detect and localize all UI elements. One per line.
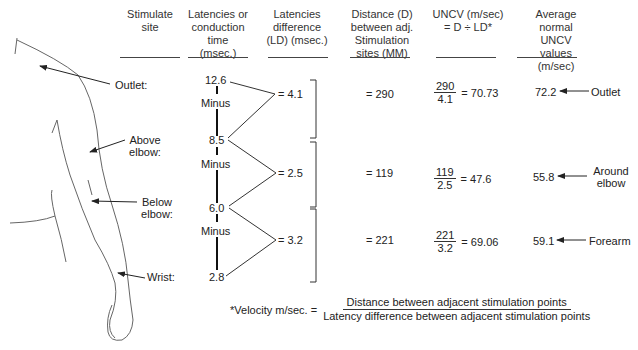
ld-value: = 4.1: [278, 88, 303, 100]
latency-value: 6.0: [209, 202, 224, 214]
header-uncv: UNCV (m/sec) = D ÷ LD*: [432, 8, 504, 34]
ld-value: = 2.5: [278, 167, 303, 179]
minus-label: Minus: [201, 97, 230, 109]
header-latency: Latencies or conduction time (msec.): [188, 8, 248, 60]
site-label-above-elbow: Above elbow:: [125, 134, 165, 158]
avg-value: 59.1: [533, 235, 554, 247]
uncv-fraction: 1192.5 = 47.6: [434, 166, 491, 191]
minus-label: Minus: [201, 158, 230, 170]
uncv-numerator: 290: [434, 80, 456, 93]
uncv-numerator: 119: [434, 166, 456, 179]
uncv-fraction: 2213.2 = 69.06: [434, 229, 498, 254]
avg-value: 55.8: [533, 171, 554, 183]
site-label-below-elbow: Below elbow:: [137, 196, 177, 220]
header-rule: [188, 57, 248, 58]
uncv-denominator: 4.1: [438, 93, 453, 105]
formula-lhs: *Velocity m/sec. =: [230, 304, 317, 316]
latency-value: 2.8: [209, 271, 224, 283]
uncv-denominator: 2.5: [437, 179, 452, 191]
site-label-outlet: Outlet:: [115, 79, 147, 91]
header-rule: [120, 57, 180, 58]
distance-value: = 221: [366, 234, 394, 246]
header-ld: Latencies difference (LD) (msec.): [266, 8, 328, 47]
distance-value: = 290: [366, 88, 394, 100]
avg-region: Around elbow: [589, 165, 633, 189]
distance-value: = 119: [366, 167, 393, 179]
formula-numerator: Distance between adjacent stimulation po…: [343, 296, 571, 310]
velocity-formula: *Velocity m/sec. = Distance between adja…: [230, 296, 590, 323]
uncv-numerator: 221: [434, 229, 456, 242]
header-rule: [436, 57, 496, 58]
uncv-result: = 70.73: [461, 87, 498, 99]
header-rule: [517, 57, 577, 58]
latency-value: 8.5: [209, 134, 224, 146]
site-label-wrist: Wrist:: [147, 271, 175, 283]
header-distance: Distance (D) between adj. Stimulation si…: [346, 8, 418, 60]
ld-value: = 3.2: [278, 234, 303, 246]
header-site: Stimulate site: [120, 8, 180, 34]
latency-value: 12.6: [205, 74, 226, 86]
uncv-fraction: 2904.1 = 70.73: [434, 80, 498, 105]
uncv-result: = 69.06: [461, 236, 498, 248]
uncv-denominator: 3.2: [438, 242, 453, 254]
minus-label: Minus: [201, 225, 230, 237]
avg-region: Forearm: [589, 235, 631, 247]
uncv-result: = 47.6: [461, 173, 492, 185]
header-avg: Average normal UNCV values (m/sec): [524, 8, 588, 73]
avg-value: 72.2: [535, 86, 556, 98]
header-rule: [350, 57, 410, 58]
avg-region: Outlet: [591, 86, 620, 98]
formula-denominator: Latency difference between adjacent stim…: [323, 310, 590, 323]
header-rule: [268, 57, 328, 58]
